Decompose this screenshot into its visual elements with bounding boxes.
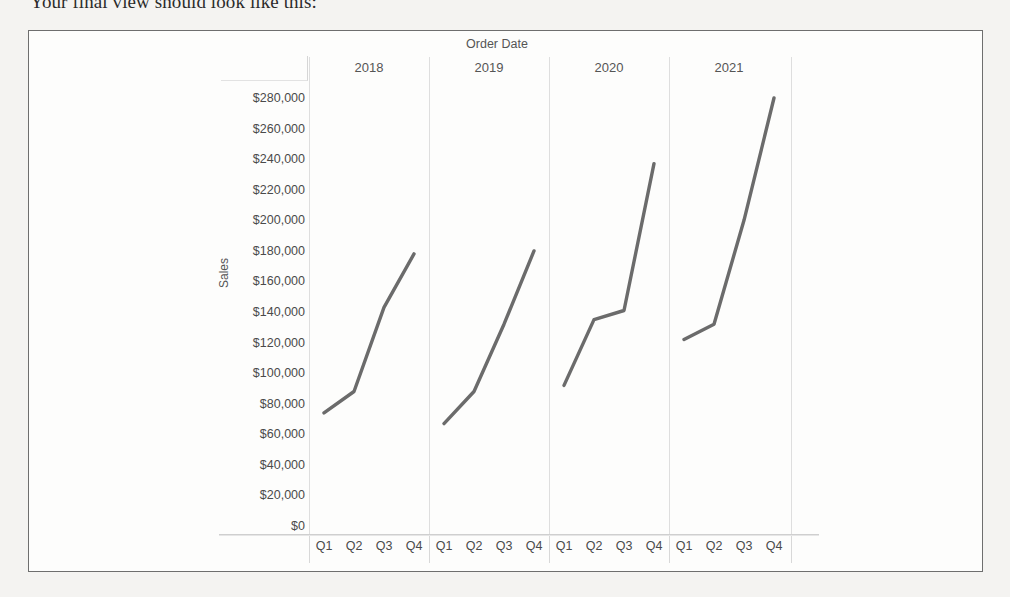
series-line-2019 [444, 251, 534, 424]
series-line-2021 [684, 98, 774, 340]
chart-figure-frame: Order Date 2018 2019 2020 2021 $280,000 … [28, 30, 983, 572]
series-line-2018 [324, 254, 414, 413]
line-chart: Order Date 2018 2019 2020 2021 $280,000 … [29, 31, 982, 571]
chart-lines-layer [29, 31, 984, 573]
series-line-2020 [564, 164, 654, 386]
page-caption: Your final view should look like this: [30, 0, 630, 13]
